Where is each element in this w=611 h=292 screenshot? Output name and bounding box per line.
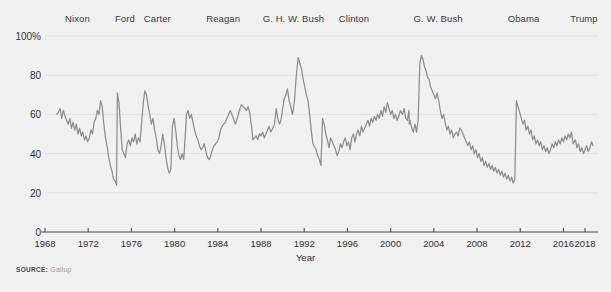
y-tick-label: 60 [30, 109, 41, 120]
y-tick-label: 100% [15, 31, 41, 42]
x-tick-label: 1980 [164, 238, 185, 249]
y-tick-label: 80 [30, 70, 41, 81]
source-note: SOURCE: Gallup [16, 266, 72, 273]
y-tick-label: 40 [30, 148, 41, 159]
x-tick-label: 2012 [510, 238, 531, 249]
x-tick-label: 2018 [574, 238, 595, 249]
chart-figure: NixonFordCarterReaganG. H. W. BushClinto… [0, 0, 611, 292]
x-tick-label: 1984 [207, 238, 228, 249]
y-tick-label: 20 [30, 187, 41, 198]
x-tick-label: 2008 [466, 238, 487, 249]
x-tick-label: 1996 [337, 238, 358, 249]
x-tick-label: 1968 [34, 238, 55, 249]
x-tick-label: 1976 [121, 238, 142, 249]
x-axis-title: Year [0, 252, 611, 263]
source-key: SOURCE: [16, 266, 48, 273]
x-tick-label: 2016 [553, 238, 574, 249]
x-axis-tick-labels: 1968197219761980198419881992199620002004… [0, 238, 611, 252]
x-tick-label: 1972 [78, 238, 99, 249]
source-value: Gallup [50, 266, 71, 273]
x-tick-label: 1988 [250, 238, 271, 249]
x-tick-label: 1992 [294, 238, 315, 249]
x-tick-label: 2000 [380, 238, 401, 249]
y-tick-label: 0 [35, 227, 41, 238]
x-tick-label: 2004 [423, 238, 444, 249]
x-tick-marks [45, 228, 585, 232]
